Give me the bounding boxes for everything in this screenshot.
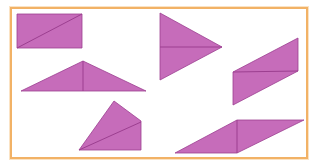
right-pointing-triangle-shape (160, 13, 222, 80)
quadrilateral-polygon (79, 101, 141, 150)
rectangle-shape (17, 14, 82, 48)
flat-parallelogram-polygon (175, 120, 304, 153)
flat-parallelogram-shape (175, 120, 304, 153)
wide-isosceles-triangle-shape (21, 61, 146, 91)
quadrilateral-shape (79, 101, 141, 150)
slanted-parallelogram-shape (233, 38, 298, 105)
shapes-canvas (0, 0, 317, 166)
